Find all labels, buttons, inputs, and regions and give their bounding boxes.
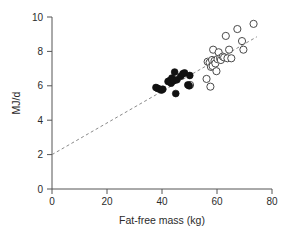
data-series-filled-circles xyxy=(153,69,194,97)
y-tick-label-4: 4 xyxy=(37,115,43,126)
data-point xyxy=(207,83,214,90)
data-point xyxy=(238,37,245,44)
y-tick-label-6: 6 xyxy=(37,80,43,91)
data-point xyxy=(159,86,166,93)
data-point xyxy=(228,55,235,62)
y-axis-ticks xyxy=(47,17,52,189)
x-axis-ticks xyxy=(52,189,272,194)
y-tick-label-10: 10 xyxy=(32,12,44,23)
x-tick-label-40: 40 xyxy=(156,196,168,207)
data-point xyxy=(186,82,193,89)
x-tick-label-60: 60 xyxy=(211,196,223,207)
data-point xyxy=(234,25,241,32)
data-point xyxy=(226,46,233,53)
data-point xyxy=(172,90,179,97)
data-series-open-circles xyxy=(186,20,257,90)
scatter-plot-figure: 10 8 6 4 2 0 0 20 40 60 80 Fat-free mass… xyxy=(0,0,296,234)
data-point xyxy=(171,69,178,76)
data-point xyxy=(186,72,193,79)
y-tick-label-8: 8 xyxy=(37,46,43,57)
x-tick-label-0: 0 xyxy=(49,196,55,207)
x-tick-label-80: 80 xyxy=(266,196,278,207)
y-tick-label-2: 2 xyxy=(37,149,43,160)
chart-canvas: 10 8 6 4 2 0 0 20 40 60 80 Fat-free mass… xyxy=(0,0,296,234)
data-point xyxy=(203,75,210,82)
y-tick-label-0: 0 xyxy=(37,184,43,195)
y-axis-title: MJ/d xyxy=(10,91,22,114)
data-point xyxy=(250,20,257,27)
data-point xyxy=(240,46,247,53)
x-axis-title: Fat-free mass (kg) xyxy=(119,214,205,226)
data-point xyxy=(222,32,229,39)
x-tick-label-20: 20 xyxy=(101,196,113,207)
data-point xyxy=(213,68,220,75)
